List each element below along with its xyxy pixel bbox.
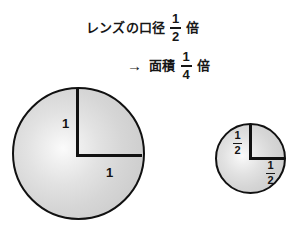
large-circle-horizontal-radius-line: [76, 154, 142, 157]
small-circle-horizontal-radius-label: 1 2: [266, 160, 275, 187]
fraction-numerator: 1: [233, 130, 241, 142]
fraction-one-half-diameter: 1 2: [170, 12, 181, 43]
large-circle-vertical-radius-label: 1: [62, 117, 69, 130]
fraction-denominator: 2: [233, 145, 241, 157]
fraction-denominator: 4: [181, 68, 190, 82]
caption-trail-text-diameter: 倍: [186, 21, 199, 34]
fraction-denominator: 2: [171, 30, 180, 44]
small-circle-vertical-radius-line: [249, 124, 252, 159]
right-arrow-icon: →: [127, 58, 142, 73]
fraction-denominator: 2: [266, 175, 274, 187]
caption-trail-text-area: 倍: [197, 59, 210, 72]
caption-line-area: → 面積 1 4 倍: [127, 50, 210, 81]
fraction-numerator: 1: [181, 50, 190, 64]
small-circle-vertical-radius-label: 1 2: [233, 130, 242, 157]
large-circle-horizontal-radius-label: 1: [106, 166, 113, 179]
figure-canvas: レンズの口径 1 2 倍 → 面積 1 4 倍 1 1 1 2 1 2: [0, 0, 302, 236]
large-circle-vertical-radius-line: [76, 88, 79, 156]
caption-line-diameter: レンズの口径 1 2 倍: [86, 12, 199, 43]
caption-lead-text-area: 面積: [149, 59, 175, 72]
fraction-numerator: 1: [266, 160, 274, 172]
caption-lead-text-diameter: レンズの口径: [86, 21, 165, 34]
fraction-numerator: 1: [171, 12, 180, 26]
fraction-one-quarter-area: 1 4: [181, 50, 192, 81]
